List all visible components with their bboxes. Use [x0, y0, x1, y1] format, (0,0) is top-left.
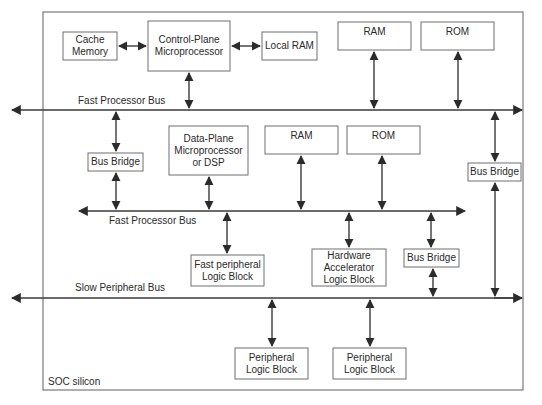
bus-bridge-left-label: Bus Bridge — [88, 153, 143, 171]
rom-mid-label: ROM — [347, 126, 420, 146]
cache-memory-label: Cache Memory — [63, 32, 117, 60]
fast-processor-bus-middle-label: Fast Processor Bus — [109, 215, 196, 226]
bus-bridge-lower-label: Bus Bridge — [404, 249, 459, 267]
bus-bridge-right-label: Bus Bridge — [468, 163, 521, 181]
soc-boundary — [43, 12, 523, 390]
soc-silicon-label: SOC silicon — [48, 376, 100, 387]
ram-mid-label: RAM — [265, 126, 338, 146]
control-plane-label: Control-Plane Microprocessor — [153, 21, 225, 71]
slow-peripheral-bus-label: Slow Peripheral Bus — [75, 282, 165, 293]
data-plane-label: Data-Plane Microprocessor or DSP — [171, 126, 246, 175]
fast-processor-bus-top-label: Fast Processor Bus — [78, 95, 165, 106]
fast-peripheral-label: Fast peripheral Logic Block — [191, 255, 264, 286]
peripheral-2-label: Peripheral Logic Block — [338, 348, 401, 379]
local-ram-label: Local RAM — [262, 32, 317, 60]
ram-top-label: RAM — [338, 22, 411, 42]
peripheral-1-label: Peripheral Logic Block — [240, 348, 303, 379]
soc-block-diagram — [0, 0, 542, 405]
hw-accelerator-label: Hardware Accelerator Logic Block — [314, 249, 384, 286]
rom-top-label: ROM — [421, 22, 494, 42]
